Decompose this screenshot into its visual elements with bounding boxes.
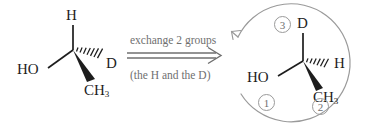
product-bottom-subscript: 3: [334, 96, 339, 106]
bond-to-ho-plain-right: [278, 61, 303, 76]
priority-badge-1: 1: [258, 94, 275, 111]
priority-badge-3: 3: [274, 16, 291, 33]
product-top-label: D: [297, 16, 308, 31]
bond-to-h-hashed-wedge: [307, 58, 329, 67]
product-left-label: HO: [247, 70, 269, 85]
product-right-label: H: [334, 56, 345, 71]
stereochemistry-diagram: H HO D CH3 exchange 2 groups (the H and …: [0, 0, 368, 129]
priority-badge-2: 2: [312, 98, 329, 115]
bond-to-ch3-bold-wedge-right: [303, 61, 323, 91]
